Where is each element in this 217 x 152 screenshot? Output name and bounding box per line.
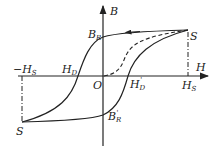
origin-label: O (93, 79, 102, 92)
h-axis-label: H (195, 61, 206, 74)
hd-prime-label: HD' (129, 76, 146, 92)
br-label: BR (87, 28, 102, 42)
hs-label: HS (181, 79, 197, 93)
b-axis-label: B (109, 5, 118, 18)
hysteresis-diagram: B H O S S BR BR' HD HD' −HS HS (0, 0, 217, 152)
initial-magnetization-curve (104, 30, 188, 76)
neg-hs-label: −HS (13, 63, 37, 77)
s-top-label: S (190, 30, 198, 43)
s-bottom-label: S (16, 125, 24, 138)
br-prime-label: BR' (107, 109, 122, 124)
hd-label: HD (61, 63, 78, 77)
